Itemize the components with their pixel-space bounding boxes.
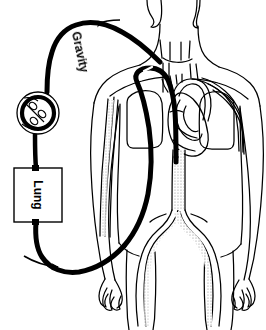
lung-outlet-port — [32, 219, 39, 225]
pump-to-lung-tube — [35, 134, 36, 168]
lung-oxygenator-box: Lung — [14, 165, 62, 225]
roller-pump — [17, 92, 59, 134]
figure-background — [0, 0, 266, 330]
lung-label: Lung — [31, 180, 45, 209]
lung-inlet-port — [32, 165, 39, 171]
ecmo-circuit-figure: Lung Gravity — [0, 0, 266, 330]
diagram-canvas: Lung Gravity — [0, 0, 266, 330]
